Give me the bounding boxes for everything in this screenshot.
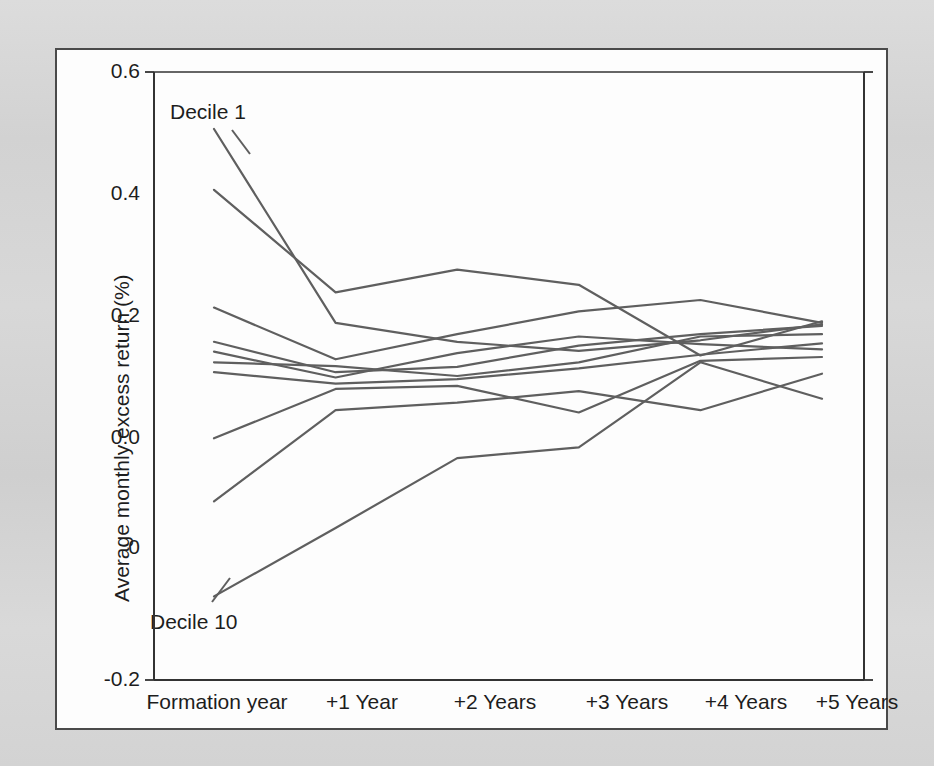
series-line — [214, 334, 822, 376]
figure-frame: Average monthly excess return (%) 0.60.4… — [55, 48, 888, 730]
series-line — [214, 374, 822, 502]
series-line — [214, 343, 822, 383]
series-line — [214, 300, 822, 359]
decile-1-leader-line — [232, 130, 250, 154]
line-chart-plot — [57, 50, 890, 732]
series-line — [214, 129, 822, 351]
